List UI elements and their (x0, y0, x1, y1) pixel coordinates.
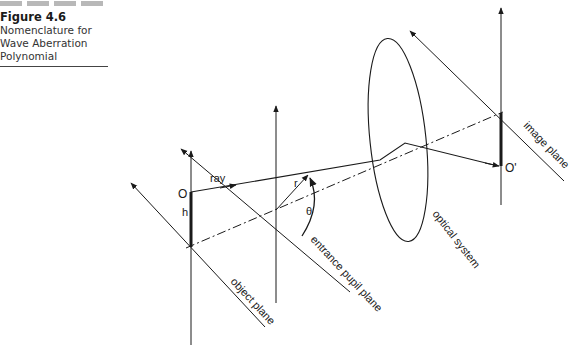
ray-path: ray (191, 143, 499, 192)
ray-image-arrow (485, 163, 499, 166)
lens-ellipse (359, 36, 436, 245)
object-plane-line (131, 183, 265, 327)
object-plane: O h object plane (131, 151, 278, 345)
object-point-label: O (178, 187, 187, 201)
image-plane: O' image plane (410, 8, 572, 205)
pupil-angle-label: θ (306, 205, 312, 217)
object-plane-label: object plane (229, 275, 278, 327)
optical-system: optical system (359, 36, 482, 271)
object-height-label: h (182, 206, 188, 218)
image-point-label: O' (505, 161, 517, 175)
pupil-radius-label: r (294, 177, 298, 189)
ray-line (191, 143, 494, 192)
entrance-pupil: r θ entrance pupil plane (181, 106, 385, 314)
aberration-diagram: O h object plane r θ entrance pupil plan… (0, 0, 587, 363)
image-plane-label: image plane (522, 119, 572, 170)
entrance-pupil-plane-label: entrance pupil plane (309, 233, 385, 314)
image-plane-line (410, 31, 564, 181)
optical-system-label: optical system (430, 208, 482, 270)
ray-label: ray (210, 172, 226, 184)
pupil-radius-vector (276, 175, 308, 210)
pupil-plane-line (181, 149, 350, 292)
